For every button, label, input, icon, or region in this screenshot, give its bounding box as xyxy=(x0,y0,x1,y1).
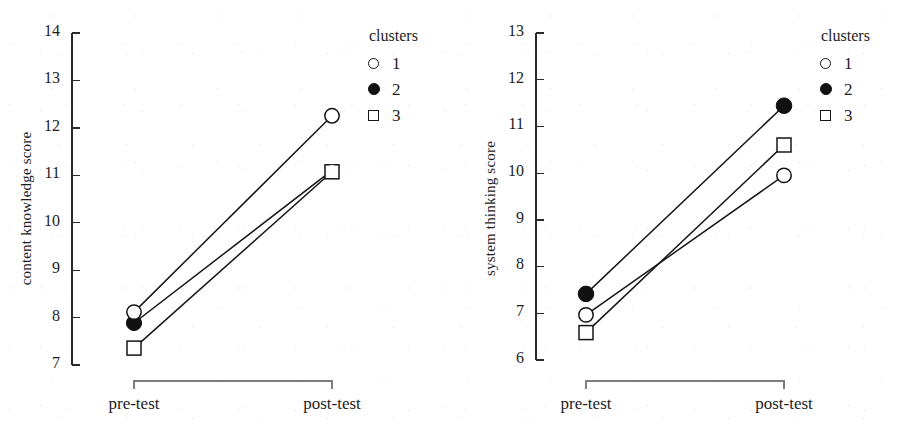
legend-item-cluster-3[interactable]: 3 xyxy=(819,102,870,128)
legend-item-label: 2 xyxy=(392,81,401,98)
open-square-icon xyxy=(367,108,381,122)
data-point-cluster1-pretest xyxy=(127,305,141,319)
legend-item-cluster-1[interactable]: 1 xyxy=(819,50,870,76)
legend-item-cluster-3[interactable]: 3 xyxy=(367,102,418,128)
legend-item-label: 3 xyxy=(844,107,853,124)
data-point-cluster1-pretest xyxy=(579,308,593,322)
x-tick-label-post-test: post-test xyxy=(272,394,392,414)
data-point-cluster2-posttest xyxy=(327,165,337,175)
data-point-cluster2-posttest xyxy=(776,98,792,114)
filled-circle-icon xyxy=(819,82,833,96)
data-point-cluster1-posttest xyxy=(325,109,339,123)
legend-title: clusters xyxy=(369,27,418,45)
legend-item-cluster-2[interactable]: 2 xyxy=(367,76,418,102)
open-circle-icon xyxy=(819,56,833,70)
legend-item-cluster-1[interactable]: 1 xyxy=(367,50,418,76)
legend-item-label: 1 xyxy=(392,55,401,72)
open-square-icon xyxy=(819,108,833,122)
legend-clusters: clusters 1 2 3 xyxy=(819,27,870,128)
legend-item-label: 2 xyxy=(844,81,853,98)
legend-clusters: clusters 1 2 3 xyxy=(367,27,418,128)
legend-item-label: 1 xyxy=(844,55,853,72)
system-thinking-panel: system thinking score 13 12 11 10 9 8 7 … xyxy=(452,0,904,428)
content-knowledge-panel: content knowledge score 14 13 12 11 10 9… xyxy=(0,0,452,428)
two-panel-line-chart-figure: content knowledge score 14 13 12 11 10 9… xyxy=(0,0,904,428)
data-point-cluster1-posttest xyxy=(777,168,791,182)
data-point-cluster3-pretest xyxy=(127,341,141,355)
legend-title: clusters xyxy=(821,27,870,45)
legend-item-cluster-2[interactable]: 2 xyxy=(819,76,870,102)
x-tick-label-pre-test: pre-test xyxy=(74,394,194,414)
open-circle-icon xyxy=(367,56,381,70)
data-point-cluster2-pretest xyxy=(578,286,594,302)
x-tick-label-post-test: post-test xyxy=(724,394,844,414)
x-tick-label-pre-test: pre-test xyxy=(526,394,646,414)
filled-circle-icon xyxy=(367,82,381,96)
data-point-cluster3-posttest xyxy=(777,138,791,152)
legend-item-label: 3 xyxy=(392,107,401,124)
data-point-cluster3-pretest xyxy=(579,326,593,340)
